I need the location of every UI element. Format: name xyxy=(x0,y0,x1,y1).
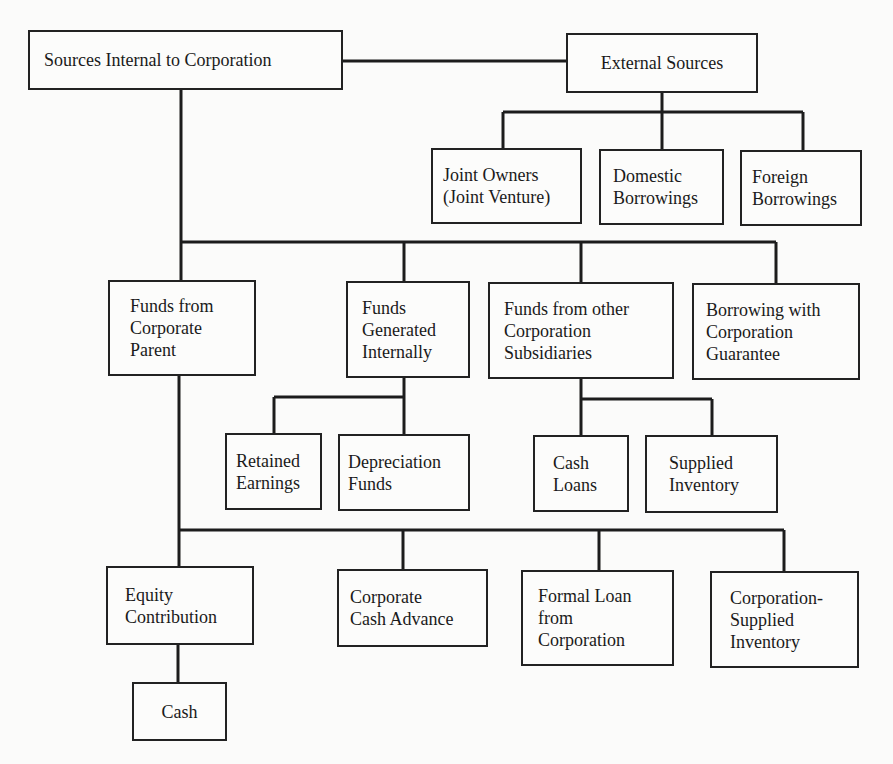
node-corporate-cash-advance: Corporate Cash Advance xyxy=(337,569,488,647)
node-sources-internal: Sources Internal to Corporation xyxy=(28,30,343,90)
node-depreciation-funds: Depreciation Funds xyxy=(338,434,470,511)
node-label: External Sources xyxy=(601,52,723,74)
node-formal-loan-from-corporation: Formal Loan from Corporation xyxy=(521,570,674,666)
node-funds-other-subsidiaries: Funds from other Corporation Subsidiarie… xyxy=(488,282,674,379)
node-cash-loans: Cash Loans xyxy=(533,435,629,512)
node-external-sources: External Sources xyxy=(566,33,758,93)
node-equity-contribution: Equity Contribution xyxy=(106,566,254,645)
node-label: Sources Internal to Corporation xyxy=(44,49,327,71)
node-domestic-borrowings: Domestic Borrowings xyxy=(599,149,724,225)
node-retained-earnings: Retained Earnings xyxy=(225,433,322,510)
node-cash: Cash xyxy=(132,682,227,741)
node-supplied-inventory: Supplied Inventory xyxy=(645,435,778,513)
node-corporation-supplied-inventory: Corporation- Supplied Inventory xyxy=(710,571,859,668)
node-joint-owners: Joint Owners (Joint Venture) xyxy=(431,148,582,224)
node-funds-generated-internally: Funds Generated Internally xyxy=(346,281,470,378)
node-borrowing-corporation-guarantee: Borrowing with Corporation Guarantee xyxy=(692,283,860,380)
node-funds-corporate-parent: Funds from Corporate Parent xyxy=(108,280,256,376)
node-foreign-borrowings: Foreign Borrowings xyxy=(740,150,862,226)
